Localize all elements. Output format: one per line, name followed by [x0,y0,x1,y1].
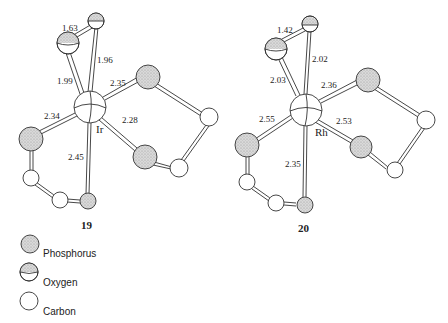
carbon-atom [417,111,435,129]
rhodium-atom [290,94,322,126]
carbon-legend-icon [20,292,38,310]
bond-length-ir-p-upper-right: 2.35 [110,78,126,88]
carbon-atom [268,195,284,211]
bond-length-rh-p-upper-right: 2.36 [321,80,337,90]
metal-label-ir: Ir [96,123,103,135]
carbon-atom [239,174,255,190]
bond-length-ir-p-left: 2.34 [44,111,60,121]
bond-length-rh-p-bottom: 2.35 [285,159,301,169]
oxygen-atom [88,13,104,29]
phosphorus-atom [80,193,96,209]
oxygen-atom [302,16,318,32]
legend-label-carbon: Carbon [43,307,76,317]
carbon-atom [387,162,403,178]
phosphorus-atom [356,68,380,92]
carbon-atom [52,192,68,208]
bond-length-rh-o-top: 2.02 [312,54,328,64]
bond-length-ir-p-lower-right: 2.28 [122,115,138,125]
compound-label-20: 20 [298,222,309,234]
legend-symbols [20,235,39,310]
legend-label-oxygen: Oxygen [43,278,77,288]
bond-length-rh-p-lower-right: 2.53 [336,116,352,126]
phosphorus-atom [235,133,259,157]
bond-length-oo-19: 1.63 [62,23,78,33]
compound-label-19: 19 [81,219,92,231]
bond-length-ir-o-top: 1.96 [97,55,113,65]
bond-length-ir-p-bottom: 2.45 [68,152,84,162]
phosphorus-atom [19,127,43,151]
oxygen-atom [265,38,287,60]
metal-label-rh: Rh [315,126,328,138]
oxygen-atom [57,32,79,54]
phosphorus-atom [350,136,372,158]
phosphorus-atom [297,197,313,213]
bond-length-rh-o-left: 2.03 [270,75,286,85]
iridium-atom [74,91,106,123]
bond-length-rh-p-left: 2.55 [259,114,275,124]
carbon-atom [200,108,218,126]
bond-length-oo-20: 1.42 [277,25,293,35]
phosphorus-legend-icon [21,235,39,253]
carbon-atom [170,159,188,177]
carbon-atom [23,170,39,186]
legend-label-phosphorus: Phosphorus [43,249,96,259]
phosphorus-atom [136,65,160,89]
phosphorus-atom [133,145,157,169]
bond-length-ir-o-left: 1.99 [57,76,73,86]
oxygen-legend-icon [20,263,38,281]
